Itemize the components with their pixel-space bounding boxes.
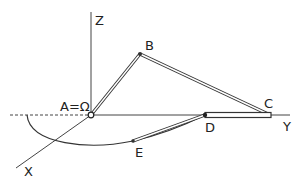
point-c-label: C — [264, 96, 273, 111]
linkage-diagram: Z Y X A=Ω B C D E — [0, 0, 308, 184]
x-axis — [16, 115, 91, 168]
joint-b-icon — [138, 52, 142, 56]
link-a-b — [91, 54, 140, 115]
point-d-label: D — [205, 120, 215, 135]
link-d-e — [133, 115, 205, 141]
trajectory-curve — [27, 115, 205, 145]
link-c-d — [205, 113, 271, 118]
origin-label: A=Ω — [60, 99, 90, 114]
joint-d-icon — [203, 113, 207, 117]
point-e-label: E — [135, 145, 143, 160]
z-axis-label: Z — [95, 13, 104, 28]
point-b-label: B — [145, 38, 154, 53]
x-axis-label: X — [24, 164, 33, 179]
link-b-c — [140, 54, 268, 114]
joint-e-icon — [131, 139, 135, 143]
y-axis-label: Y — [282, 119, 291, 134]
